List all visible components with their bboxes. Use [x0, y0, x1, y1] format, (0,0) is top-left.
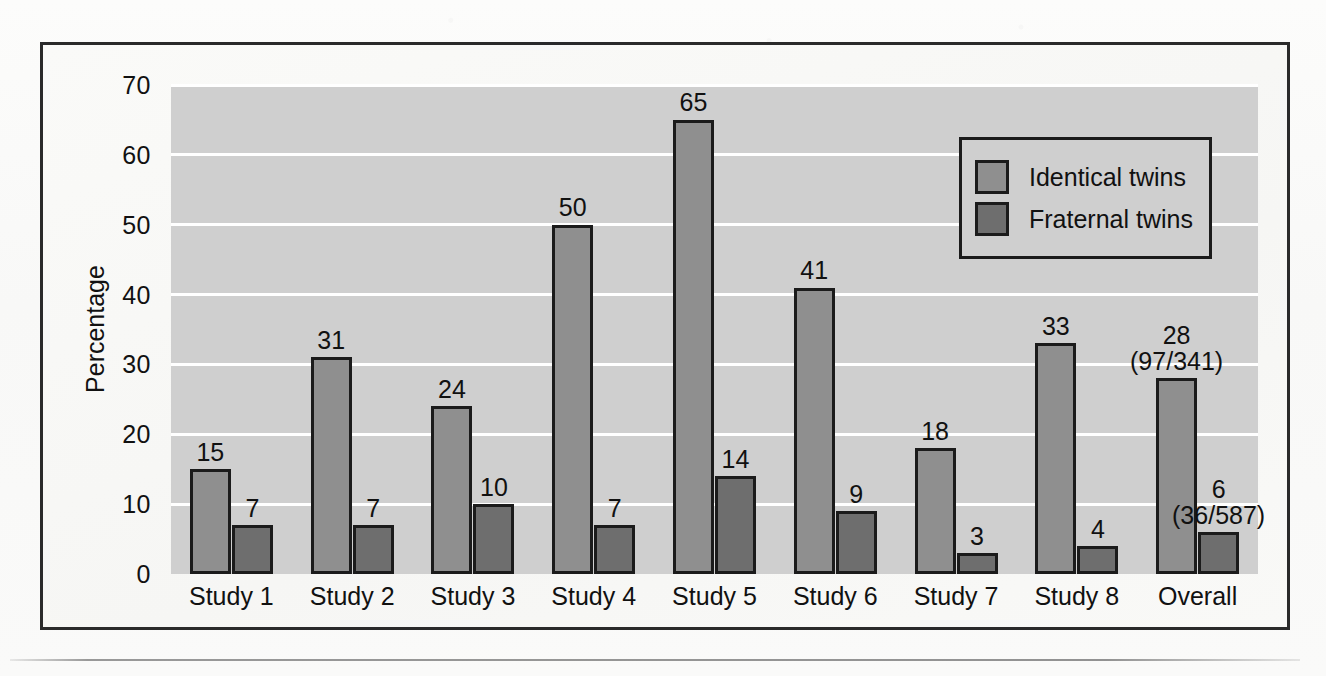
legend: Identical twins Fraternal twins	[959, 137, 1212, 259]
x-axis-tick-label: Study 7	[914, 582, 999, 611]
legend-label-identical-twins: Identical twins	[1029, 163, 1186, 192]
bar-value-label: 65	[680, 90, 708, 116]
bar-fraternal-twins	[836, 511, 877, 574]
bar-identical-twins	[1035, 343, 1076, 574]
x-axis-ticks: Study 1Study 2Study 3Study 4Study 5Study…	[171, 574, 1258, 630]
bar-value: 65	[680, 88, 708, 116]
legend-swatch-identical-twins	[975, 160, 1009, 194]
bar-value-label: 24	[438, 377, 466, 403]
bar-value: 24	[438, 375, 466, 403]
y-axis-tick-label: 30	[122, 350, 151, 379]
x-axis-tick-label: Study 8	[1034, 582, 1119, 611]
bar-value-label: 7	[366, 496, 380, 522]
bar-fraternal-twins	[715, 476, 756, 574]
y-axis-tick-label: 0	[137, 560, 151, 589]
bar-value: 18	[921, 417, 949, 445]
bar-value: 33	[1042, 312, 1070, 340]
bar-value-label: 18	[921, 419, 949, 445]
x-axis-tick-label: Study 4	[551, 582, 636, 611]
legend-item-fraternal-twins: Fraternal twins	[975, 202, 1193, 236]
bar-identical-twins	[431, 406, 472, 574]
bar-value-label: 41	[800, 258, 828, 284]
bar-value-label: 6(36/587)	[1172, 477, 1265, 528]
bar-value-label: 31	[317, 328, 345, 354]
x-axis-tick-label: Study 2	[310, 582, 395, 611]
bar-value-label: 33	[1042, 314, 1070, 340]
bar-fraternal-twins	[1077, 546, 1118, 574]
bar-value: 15	[196, 438, 224, 466]
bar-value-label: 7	[245, 496, 259, 522]
gridline	[171, 84, 1258, 87]
x-axis-tick-label: Study 3	[431, 582, 516, 611]
bar-value-annotation: (97/341)	[1130, 349, 1223, 375]
legend-item-identical-twins: Identical twins	[975, 160, 1193, 194]
bar-identical-twins	[794, 288, 835, 574]
y-axis-tick-label: 60	[122, 140, 151, 169]
bar-value: 14	[722, 445, 750, 473]
bar-value: 50	[559, 193, 587, 221]
bar-value: 7	[366, 494, 380, 522]
x-axis-tick-label: Overall	[1158, 582, 1237, 611]
bar-value-annotation: (36/587)	[1172, 503, 1265, 529]
y-axis-ticks: 010203040506070	[43, 85, 165, 574]
bar-value: 9	[849, 480, 863, 508]
bar-value: 10	[480, 473, 508, 501]
bar-value-label: 10	[480, 475, 508, 501]
bar-value-label: 7	[608, 496, 622, 522]
bar-value-label: 50	[559, 195, 587, 221]
bar-fraternal-twins	[594, 525, 635, 574]
bar-value-label: 9	[849, 482, 863, 508]
bar-fraternal-twins	[473, 504, 514, 574]
bar-value: 31	[317, 326, 345, 354]
bar-value-label: 14	[722, 447, 750, 473]
legend-label-fraternal-twins: Fraternal twins	[1029, 205, 1193, 234]
y-axis-tick-label: 20	[122, 420, 151, 449]
y-axis-tick-label: 40	[122, 280, 151, 309]
bar-value: 41	[800, 256, 828, 284]
bar-identical-twins	[915, 448, 956, 574]
figure-frame: Percentage 010203040506070 1573172410507…	[40, 42, 1290, 630]
x-axis-tick-label: Study 5	[672, 582, 757, 611]
bar-identical-twins	[552, 225, 593, 574]
bar-identical-twins	[673, 120, 714, 574]
bar-identical-twins	[190, 469, 231, 574]
gridline	[171, 293, 1258, 296]
bar-value: 28	[1163, 321, 1191, 349]
y-axis-tick-label: 10	[122, 490, 151, 519]
legend-swatch-fraternal-twins	[975, 202, 1009, 236]
bar-value-label: 28(97/341)	[1130, 323, 1223, 374]
x-axis-tick-label: Study 6	[793, 582, 878, 611]
bar-value: 6	[1212, 475, 1226, 503]
bar-value: 3	[970, 522, 984, 550]
x-axis-tick-label: Study 1	[189, 582, 274, 611]
bar-value: 7	[608, 494, 622, 522]
y-axis-tick-label: 70	[122, 71, 151, 100]
bar-fraternal-twins	[232, 525, 273, 574]
bar-value-label: 3	[970, 524, 984, 550]
bar-identical-twins	[311, 357, 352, 574]
bar-fraternal-twins	[957, 553, 998, 574]
bar-value: 7	[245, 494, 259, 522]
bar-value: 4	[1091, 515, 1105, 543]
figure-page: Percentage 010203040506070 1573172410507…	[0, 0, 1326, 676]
bottom-rule	[10, 659, 1300, 661]
bar-value-label: 15	[196, 440, 224, 466]
bar-value-label: 4	[1091, 517, 1105, 543]
bar-fraternal-twins	[353, 525, 394, 574]
bar-fraternal-twins	[1198, 532, 1239, 574]
y-axis-tick-label: 50	[122, 210, 151, 239]
